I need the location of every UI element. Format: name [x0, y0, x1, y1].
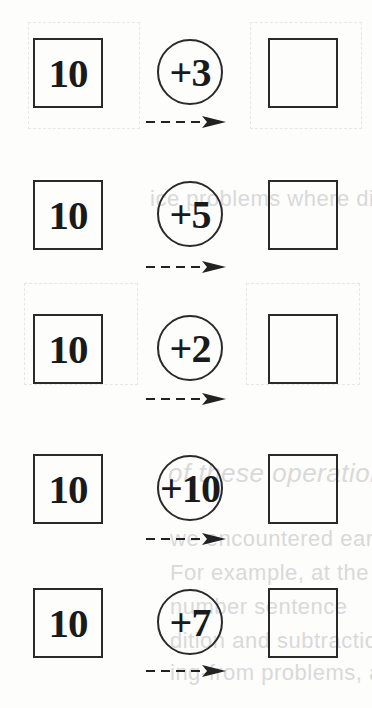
start-number-box: 10 [33, 454, 103, 524]
start-number: 10 [49, 325, 88, 373]
problem-row-4: 10 +10 [0, 454, 372, 554]
start-number: 10 [49, 465, 88, 513]
operator-label: +3 [170, 49, 211, 96]
problem-row-2: 10 +5 [0, 180, 372, 280]
problem-row-5: 10 +7 [0, 588, 372, 688]
operator-label: +5 [170, 191, 211, 238]
operator-circle: +2 [157, 315, 223, 381]
operator-circle: +3 [157, 39, 223, 105]
operator-circle: +5 [157, 181, 223, 247]
dashed-right-arrow-icon [146, 665, 226, 677]
operator-label: +10 [160, 465, 220, 512]
answer-box[interactable] [268, 454, 338, 524]
answer-box[interactable] [268, 180, 338, 250]
answer-box[interactable] [268, 588, 338, 658]
dashed-right-arrow-icon [146, 261, 226, 273]
answer-box[interactable] [268, 314, 338, 384]
problem-row-1: 10 +3 [0, 38, 372, 138]
dashed-right-arrow-icon [146, 393, 226, 405]
operator-label: +2 [170, 325, 211, 372]
operator-circle: +7 [157, 589, 223, 655]
operator-label: +7 [170, 599, 211, 646]
start-number-box: 10 [33, 180, 103, 250]
dashed-right-arrow-icon [146, 533, 226, 545]
show-through-text: For example, at the beginning [170, 560, 372, 586]
start-number-box: 10 [33, 314, 103, 384]
answer-box[interactable] [268, 38, 338, 108]
start-number-box: 10 [33, 588, 103, 658]
problem-row-3: 10 +2 [0, 314, 372, 414]
operator-circle: +10 [157, 455, 223, 521]
dashed-right-arrow-icon [146, 116, 226, 128]
start-number: 10 [49, 599, 88, 647]
start-number-box: 10 [33, 38, 103, 108]
start-number: 10 [49, 49, 88, 97]
start-number: 10 [49, 191, 88, 239]
